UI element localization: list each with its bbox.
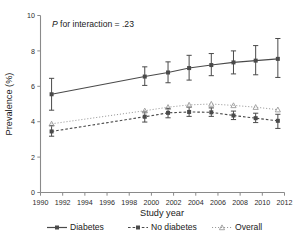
series-no-diabetes [49,107,280,136]
data-point-marker-square [276,119,280,123]
legend-label: No diabetes [151,222,197,232]
chart-legend: DiabetesNo diabetesOverall [47,222,262,232]
annotation-rest: for interaction = .23 [58,19,134,29]
data-point-marker-square [254,59,258,63]
x-tick-label: 2002 [166,199,182,207]
data-point-marker-square [136,226,140,230]
data-point-marker-square [187,110,191,114]
legend-item-diabetes[interactable]: Diabetes [47,222,104,232]
series-markers [49,101,280,126]
data-point-marker-square [166,111,170,115]
error-bars [49,39,280,111]
x-tick-label: 1996 [99,199,115,207]
x-tick-label: 2000 [144,199,160,207]
y-tick-label: 0 [31,189,35,197]
x-tick-label: 2006 [210,199,226,207]
x-tick-label: 2004 [188,199,204,207]
data-point-marker-square [187,66,191,70]
y-tick-label: 10 [27,12,35,20]
figure-container: 0246810 19901992199419961998200020022004… [0,0,294,239]
data-series-layer [49,39,280,137]
x-tick-label: 2010 [254,199,270,207]
y-tick-label: 8 [31,48,35,56]
p-value-annotation: P for interaction = .23 [52,19,134,29]
data-point-marker-square [209,63,213,67]
y-tick-label: 2 [31,154,35,162]
x-tick-label: 1990 [33,199,49,207]
x-tick-label: 2012 [277,199,293,207]
series-line [52,104,278,124]
x-tick-label: 1992 [55,199,71,207]
y-axis-title: Prevalence (%) [4,73,14,136]
legend-label: Diabetes [70,222,104,232]
data-point-marker-square [50,92,54,96]
x-tick-label: 2008 [232,199,248,207]
data-point-marker-square [143,75,147,79]
x-axis-title: Study year [140,208,184,218]
data-point-marker-square [50,129,54,133]
data-point-marker-square [276,57,280,61]
series-markers [50,110,280,133]
series-line [52,59,278,94]
legend-item-overall[interactable]: Overall [212,222,262,232]
series-line [52,112,278,131]
legend-label: Overall [235,222,262,232]
series-markers [50,57,280,96]
x-tick-label: 1998 [121,199,137,207]
x-axis-ticks: 1990199219941996199820002002200420062008… [33,193,293,207]
x-tick-label: 1994 [77,199,93,207]
prevalence-line-chart: 0246810 19901992199419961998200020022004… [0,0,294,239]
series-diabetes [49,39,280,111]
data-point-marker-square [209,110,213,114]
error-bars [49,107,280,136]
series-overall [49,101,280,126]
data-point-marker-square [254,116,258,120]
data-point-marker-square [55,226,59,230]
y-tick-label: 6 [31,83,35,91]
data-point-marker-square [231,60,235,64]
data-point-marker-square [231,114,235,118]
data-point-marker-square [166,70,170,74]
legend-item-no-diabetes[interactable]: No diabetes [128,222,197,232]
data-point-marker-square [143,115,147,119]
y-tick-label: 4 [31,118,35,126]
y-axis-ticks: 0246810 [27,12,40,197]
